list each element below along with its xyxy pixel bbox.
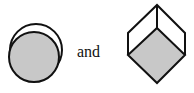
cube-shaded-face bbox=[128, 28, 185, 83]
conjunction-text: and bbox=[77, 44, 100, 60]
circles-figure bbox=[9, 24, 62, 82]
shaded-circle bbox=[9, 32, 59, 82]
cube-figure bbox=[128, 5, 185, 83]
